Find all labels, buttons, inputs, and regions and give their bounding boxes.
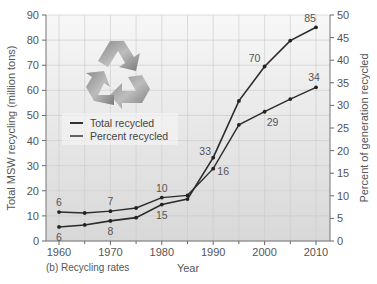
x-tick: 2000	[252, 246, 276, 258]
y-tick: 60	[27, 84, 39, 96]
data-label: 16	[217, 165, 229, 177]
y-right-tick: 40	[337, 54, 349, 66]
x-tick: 1990	[201, 246, 225, 258]
y-right-tick: 20	[337, 145, 349, 157]
y-right-tick: 45	[337, 32, 349, 44]
legend-total: Total recycled	[90, 117, 154, 129]
y-tick: 30	[27, 160, 39, 172]
y-tick: 10	[27, 210, 39, 222]
y-tick: 70	[27, 59, 39, 71]
y-axis-label: Total MSW recycling (million tons)	[5, 45, 17, 210]
y-tick: 0	[33, 235, 39, 247]
x-tick: 1980	[150, 246, 174, 258]
data-label: 70	[249, 52, 261, 64]
y-tick: 40	[27, 135, 39, 147]
data-label: 85	[304, 12, 316, 24]
y-right-tick: 10	[337, 190, 349, 202]
data-label: 7	[107, 195, 113, 207]
y-tick: 80	[27, 34, 39, 46]
y-tick: 20	[27, 185, 39, 197]
data-label: 8	[107, 225, 113, 237]
data-label: 34	[308, 71, 320, 83]
data-label: 10	[156, 182, 168, 194]
data-label: 6	[56, 231, 62, 243]
data-label: 6	[56, 196, 62, 208]
x-tick: 1960	[47, 246, 71, 258]
figure-caption: (b) Recycling rates	[46, 262, 129, 273]
x-axis-label: Year	[177, 262, 200, 274]
data-label: 15	[156, 209, 168, 221]
x-tick: 2010	[304, 246, 328, 258]
data-label: 29	[267, 116, 279, 128]
y-right-tick: 15	[337, 167, 349, 179]
y-right-tick: 35	[337, 77, 349, 89]
recycling-chart: 0102030405060708090051015202530354045501…	[0, 0, 377, 284]
y-right-tick: 30	[337, 99, 349, 111]
y-right-tick: 50	[337, 9, 349, 21]
y-axis-right-label: Percent of generation recycled	[358, 53, 370, 202]
y-right-tick: 25	[337, 122, 349, 134]
y-tick: 90	[27, 9, 39, 21]
y-right-tick: 0	[337, 235, 343, 247]
y-tick: 50	[27, 109, 39, 121]
y-right-tick: 5	[337, 212, 343, 224]
legend-percent: Percent recycled	[90, 130, 168, 142]
x-tick: 1970	[98, 246, 122, 258]
legend: Total recycled Percent recycled	[62, 113, 178, 145]
data-label: 33	[199, 145, 211, 157]
